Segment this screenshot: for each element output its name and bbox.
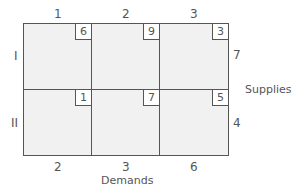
cost-box: 1: [75, 90, 91, 106]
supply-II: 4: [233, 117, 241, 129]
cell-I-2: 9: [92, 24, 160, 90]
cell-II-2: 7: [92, 90, 160, 156]
supplies-label: Supplies: [245, 84, 292, 95]
cost-box: 5: [212, 90, 228, 106]
row-header-II: II: [11, 117, 18, 129]
demands-label: Demands: [101, 175, 153, 186]
cell-II-1: 1: [24, 90, 92, 156]
cell-I-1: 6: [24, 24, 92, 90]
demand-3: 6: [190, 161, 198, 173]
column-header-2: 2: [122, 8, 130, 20]
column-header-3: 3: [190, 8, 198, 20]
cell-I-3: 3: [160, 24, 228, 90]
cost-box: 9: [143, 24, 159, 40]
cost-box: 7: [143, 90, 159, 106]
demand-2: 3: [122, 161, 130, 173]
cost-box: 6: [75, 24, 91, 40]
cost-box: 3: [212, 24, 228, 40]
transportation-table: 6 9 3 1 7 5: [23, 23, 229, 156]
row-header-I: I: [14, 50, 18, 62]
column-header-1: 1: [54, 8, 62, 20]
cell-II-3: 5: [160, 90, 228, 156]
supply-I: 7: [233, 49, 241, 61]
demand-1: 2: [54, 161, 62, 173]
